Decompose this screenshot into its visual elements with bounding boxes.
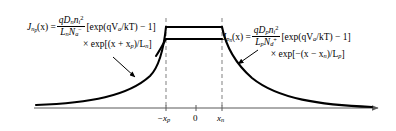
equation-left-second-line: × exp[(x + xp)/Ln] bbox=[27, 40, 156, 50]
pn-junction-current-density-figure: Jnp(x) =qDnni2LnNa−[exp(qVa/kT) − 1] × e… bbox=[0, 0, 396, 131]
fraction-left: qDnni2LnNa− bbox=[57, 15, 86, 38]
axis-label-xn: xn bbox=[217, 113, 224, 123]
equation-electron-current: Jnp(x) =qDnni2LnNa−[exp(qVa/kT) − 1] × e… bbox=[27, 16, 156, 50]
fraction-right: qDpni2LpNd+ bbox=[252, 25, 281, 48]
equation-hole-current: Jpn(x) =qDpni2LpNd+[exp(qVa/kT) − 1] × e… bbox=[222, 26, 351, 60]
equation-right-second-line: × exp[−(x − xn)/Lp] bbox=[222, 50, 351, 60]
equation-left-body: Jnp(x) =qDnni2LnNa−[exp(qVa/kT) − 1] bbox=[27, 22, 156, 32]
equation-right-body: Jpn(x) =qDpni2LpNd+[exp(qVa/kT) − 1] bbox=[222, 32, 351, 42]
axis-label-minus-xp: −xp bbox=[157, 113, 170, 123]
axis-label-zero: 0 bbox=[193, 113, 198, 123]
annotation-arrow-left bbox=[113, 57, 135, 77]
